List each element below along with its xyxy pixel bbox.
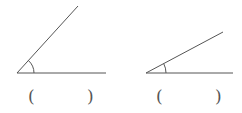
angle-2-arc xyxy=(164,64,166,73)
angle-1-answer-open-paren: ( xyxy=(28,88,35,105)
angle-2-diagonal-ray xyxy=(146,32,223,73)
angle-2 xyxy=(146,32,233,73)
angle-1-arc xyxy=(28,61,34,74)
angle-2-answer-open-paren: ( xyxy=(156,88,163,105)
angle-1-answer-close-paren: ) xyxy=(87,88,94,105)
angles-diagram xyxy=(0,0,242,113)
angle-2-answer-close-paren: ) xyxy=(215,88,222,105)
angle-1-diagonal-ray xyxy=(17,6,78,73)
angle-1 xyxy=(17,6,106,73)
